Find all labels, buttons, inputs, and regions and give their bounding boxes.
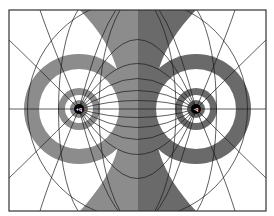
charge-left-label: +q (76, 106, 82, 112)
charge-right-label: -q (194, 106, 199, 112)
dipole-field-diagram: +q -q (0, 0, 274, 216)
charge-right: -q (191, 104, 201, 114)
charge-left: +q (74, 104, 84, 114)
